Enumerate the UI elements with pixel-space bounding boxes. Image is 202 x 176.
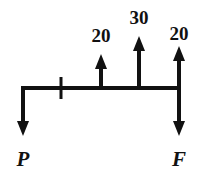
load-label-20-left: 20 xyxy=(92,25,111,46)
beam-free-body-diagram: 20 30 20 P F xyxy=(0,0,202,176)
load-arrow-load-30-middle-head xyxy=(133,36,145,51)
reaction-group xyxy=(17,86,185,136)
free-body-diagram-canvas: 20 30 20 P F xyxy=(0,0,202,176)
load-label-20-right: 20 xyxy=(170,23,189,44)
load-arrow-load-20-right-head xyxy=(173,46,185,61)
load-arrow-load-20-left-head xyxy=(95,54,107,69)
reaction-label-F: F xyxy=(171,147,186,171)
reaction-arrow-reaction-F-right-head xyxy=(173,121,185,136)
reaction-arrow-reaction-P-left-head xyxy=(17,121,29,136)
reaction-label-P: P xyxy=(16,147,30,171)
load-label-30-middle: 30 xyxy=(130,7,149,28)
